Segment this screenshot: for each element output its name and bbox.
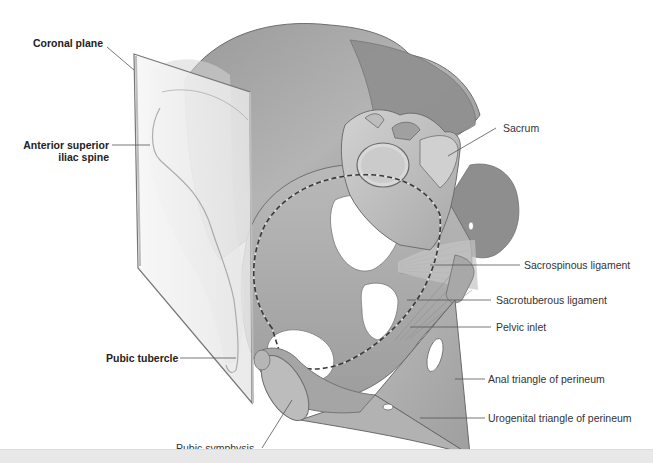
coronal-plane-sheet <box>134 54 252 403</box>
label-coronal-plane: Coronal plane <box>33 37 103 49</box>
label-asis-line2: iliac spine <box>21 151 109 163</box>
label-sacrospinous-ligament: Sacrospinous ligament <box>524 259 630 271</box>
label-urogenital-triangle: Urogenital triangle of perineum <box>488 412 632 424</box>
urethral-opening <box>383 404 393 410</box>
label-pubic-tubercle: Pubic tubercle <box>106 352 178 364</box>
label-pelvic-inlet: Pelvic inlet <box>496 321 546 333</box>
label-sacrotuberous-ligament: Sacrotuberous ligament <box>496 294 607 306</box>
label-anal-triangle: Anal triangle of perineum <box>488 373 605 385</box>
bottom-strip <box>0 449 653 463</box>
label-asis: Anterior superior iliac spine <box>21 139 109 163</box>
label-asis-line1: Anterior superior <box>21 139 109 151</box>
label-sacrum: Sacrum <box>503 122 539 134</box>
leader-coronal-plane <box>107 47 134 70</box>
